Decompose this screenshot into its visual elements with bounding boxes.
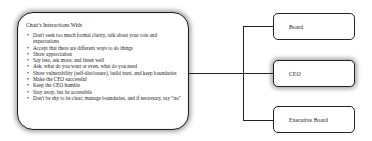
executive-board-box: Executive Board [273, 106, 355, 133]
connector-horizontal-main [189, 73, 244, 74]
connector-ceo [243, 73, 273, 74]
interaction-list: Don't seek too much formal clarity, talk… [26, 32, 182, 101]
box-title: Chair's Interactions With [26, 22, 182, 28]
board-box: Board [273, 13, 355, 40]
list-item: Don't seek too much formal clarity, talk… [26, 32, 182, 45]
chair-interactions-box: Chair's Interactions With Don't seek too… [17, 12, 189, 130]
ceo-box: CEO [273, 60, 355, 87]
connector-board [243, 26, 273, 27]
connector-executive-board [243, 120, 273, 121]
list-item: Don't be shy to be clear; manage boundar… [26, 95, 182, 101]
